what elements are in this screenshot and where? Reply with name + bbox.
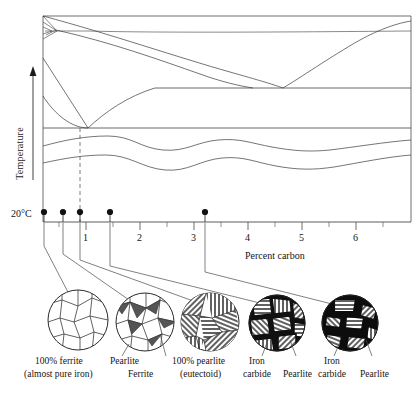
micrograph-5-callout-iron: Iron [324,356,340,367]
callout-pearlite-2 [122,344,129,356]
liquidus-curve [43,16,283,88]
micrograph-cast-iron [322,295,380,351]
leader-line-4 [110,223,264,304]
composition-marker-4[interactable] [107,209,113,222]
micrograph-3-label-line2: (eutectoid) [180,369,221,380]
micrograph-ferrite [48,290,108,352]
composition-markers [41,209,208,222]
micrograph-5-callout-carbide: carbide [318,369,346,380]
y-axis-arrow [30,66,37,180]
micrograph-4-callout-iron: Iron [249,356,265,367]
leader-line-5 [205,223,340,306]
solidus-curve-upper [56,30,253,88]
micrograph-pearlite-ferrite [116,292,176,354]
acm-line [43,58,88,128]
x-tick-label-4: 4 [245,232,250,243]
micrograph-2-callout-pearlite: Pearlite [110,356,139,367]
x-axis-ticks [59,222,383,230]
x-axis-label: Percent carbon [245,250,305,261]
micrograph-1-label-line2: (almost pure iron) [24,369,93,380]
wavy-line-1 [43,136,411,151]
x-tick-label-1: 1 [83,232,88,243]
composition-marker-3[interactable] [77,209,83,222]
wavy-line-2 [43,155,411,170]
micrograph-3-label-line1: 100% pearlite [172,356,225,367]
micrograph-100-pearlite [181,293,239,351]
iron-carbon-phase-diagram-figure [0,0,420,401]
upper-right-boundary [88,31,411,32]
composition-marker-1[interactable] [41,209,47,222]
micrograph-iron-carbide-pearlite [249,295,306,352]
x-tick-label-5: 5 [299,232,304,243]
y-axis-tick-label-20c: 20°C [11,208,32,219]
micrograph-4-callout-pearlite: Pearlite [283,369,312,380]
x-tick-label-2: 2 [137,232,142,243]
austenite-solvus-to-eutectic [88,88,155,128]
composition-marker-2[interactable] [60,209,66,222]
phase-diagram-plot [43,16,411,222]
x-tick-label-6: 6 [353,232,358,243]
y-axis-label: Temperature [14,114,25,194]
a3-curve [43,96,88,128]
micrograph-5-callout-pearlite: Pearlite [360,369,389,380]
composition-marker-5[interactable] [202,209,208,222]
micrograph-2-callout-ferrite: Ferrite [128,369,153,380]
leader-line-1 [44,223,70,296]
micrograph-1-label-line1: 100% ferrite [35,356,83,367]
micrograph-4-callout-carbide: carbide [243,369,271,380]
x-tick-label-3: 3 [191,232,196,243]
